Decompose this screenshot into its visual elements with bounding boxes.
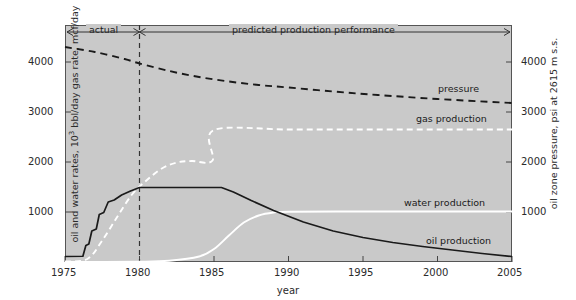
phase-arrows — [67, 25, 510, 262]
curve-pressure — [65, 47, 512, 103]
axis-ticks — [65, 62, 512, 262]
curve-oil-production — [65, 188, 512, 257]
curve-gas-production — [65, 128, 512, 262]
data-curves — [65, 47, 512, 262]
chart-canvas — [0, 0, 576, 300]
chart-figure: oil and water rates, 103 bbl/day gas rat… — [0, 0, 576, 300]
curve-water-production — [65, 211, 512, 262]
